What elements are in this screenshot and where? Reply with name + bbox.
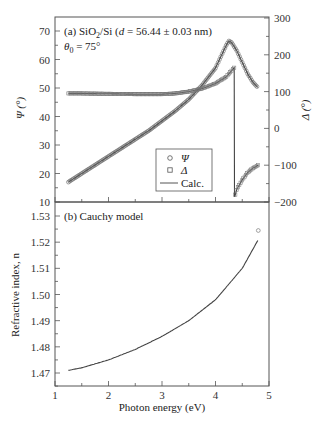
psi-axis-title: Ψ (°) [14, 97, 27, 120]
delta-tick-label: 300 [274, 12, 291, 24]
legend-psi: Ψ [181, 152, 190, 164]
axis-ticks: 12345706050403020103002001000−100−2001.5… [31, 12, 297, 401]
delta-axis-title: Δ (°) [299, 99, 312, 121]
legend-delta: Δ [180, 164, 187, 176]
psi-tick-label: 40 [39, 111, 51, 123]
x-tick-label: 4 [213, 389, 219, 401]
delta-tick-label: −100 [274, 159, 297, 171]
x-tick-label: 1 [52, 389, 58, 401]
n-tick-label: 1.52 [31, 236, 50, 248]
n-tick-label: 1.49 [31, 315, 51, 327]
psi-tick-label: 70 [39, 25, 51, 37]
delta-tick-label: 200 [274, 49, 291, 61]
panel-a-title: (a) SiO2/Si (d = 56.44 ± 0.03 nm) [64, 25, 212, 40]
n-tick-label: 1.51 [31, 262, 50, 274]
x-tick-label: 5 [266, 389, 272, 401]
x-tick-label: 3 [159, 389, 165, 401]
panel-b-frame [55, 202, 269, 386]
legend: Ψ Δ Calc. [156, 149, 212, 191]
n-tick-label: 1.53 [31, 210, 51, 222]
n-tick-label: 1.47 [31, 367, 51, 379]
n-tick-label: 1.50 [31, 289, 51, 301]
legend-calc: Calc. [181, 177, 204, 189]
psi-tick-label: 50 [39, 82, 51, 94]
psi-tick-label: 10 [39, 196, 51, 208]
data-curves [68, 41, 258, 370]
psi-tick-label: 30 [39, 139, 51, 151]
x-tick-label: 2 [106, 389, 112, 401]
ellipsometry-chart: 12345706050403020103002001000−100−2001.5… [0, 0, 317, 426]
psi-tick-label: 60 [39, 54, 51, 66]
psi-tick-label: 20 [39, 168, 51, 180]
data-markers [67, 39, 261, 232]
n-tick-label: 1.48 [31, 341, 51, 353]
delta-tick-label: −200 [274, 196, 297, 208]
delta-tick-label: 100 [274, 86, 291, 98]
x-axis-title: Photon energy (eV) [119, 401, 206, 414]
delta-tick-label: 0 [274, 122, 280, 134]
n-axis-title: Refractive index, n [9, 253, 21, 337]
incidence-angle: θ0 = 75° [64, 40, 101, 55]
cauchy-n-curve [68, 241, 257, 371]
panel-b-title: (b) Cauchy model [64, 210, 143, 223]
